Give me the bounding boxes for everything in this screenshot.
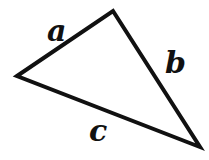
side-label-b: b	[165, 48, 186, 78]
side-label-a: a	[47, 16, 66, 46]
diagram-canvas: a b c	[0, 0, 209, 160]
side-label-c: c	[89, 116, 107, 146]
